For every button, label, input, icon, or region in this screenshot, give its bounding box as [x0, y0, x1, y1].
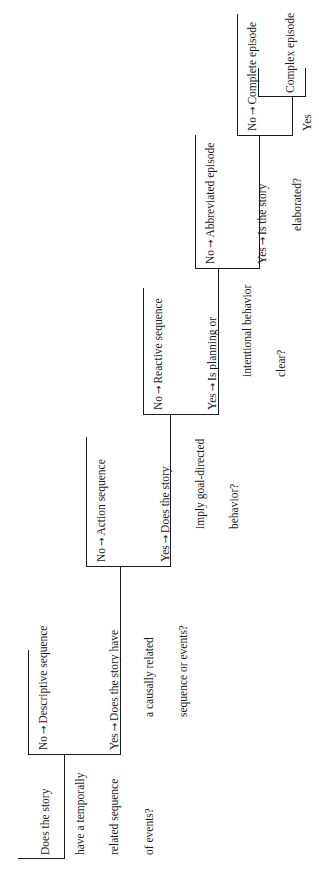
- node-3-no-label: No→Reactive sequence: [130, 298, 188, 410]
- no-label: No: [152, 396, 164, 410]
- arrow-icon: →: [160, 533, 171, 545]
- arrow-icon: →: [257, 235, 268, 247]
- no-label: No: [95, 548, 107, 562]
- no-label: No: [37, 736, 49, 750]
- node-2-bracket: [86, 566, 171, 567]
- root-baseline: [18, 858, 65, 859]
- episode-types-bracket-left: [258, 68, 259, 97]
- no-label: No: [204, 250, 216, 264]
- arrow-icon: →: [96, 536, 107, 548]
- episode-types-bracket: [258, 96, 306, 97]
- node-2-yes-question: Yes→Does the story imply goal-directed b…: [137, 439, 264, 562]
- root-question-line-2: have a temporally: [75, 773, 87, 855]
- node-1-bracket: [28, 754, 121, 755]
- arrow-icon: →: [247, 105, 258, 117]
- node-3-bracket: [143, 414, 219, 415]
- arrow-icon: →: [207, 381, 218, 393]
- episode-types-list: Complex episode Multiple episode Interac…: [262, 6, 319, 93]
- node-1-no-label: No→Descriptive sequence: [15, 626, 73, 750]
- yes-label: Yes: [159, 545, 171, 562]
- node-3-no-outcome: Reactive sequence: [152, 298, 164, 383]
- root-question: Does the story have a temporally related…: [17, 773, 178, 855]
- node-5-bracket: [237, 135, 293, 136]
- node-4-no-outcome: Abbreviated episode: [204, 143, 216, 238]
- node-4-yes-question: Yes→Is the story elaborated?: [234, 178, 319, 264]
- root-question-line-1: Does the story: [40, 773, 52, 855]
- node-1-yes-question: Yes→Does the story have a causally relat…: [86, 625, 213, 750]
- node-5-no-outcome: Complete episode: [246, 22, 258, 105]
- node-2-no-outcome: Action sequence: [95, 459, 107, 535]
- node-3-yes-question: Yes→Is planning or intentional behavior …: [184, 285, 311, 410]
- root-question-line-4: of events?: [144, 773, 156, 855]
- arrow-icon: →: [205, 238, 216, 250]
- root-question-line-3: related sequence: [109, 773, 121, 855]
- yes-label: Yes: [256, 247, 268, 264]
- episode-type-complex: Complex episode: [285, 6, 297, 93]
- no-label: No: [246, 117, 258, 131]
- yes-label: Yes: [302, 114, 314, 131]
- node-1-no-outcome: Descriptive sequence: [37, 626, 49, 724]
- node-4-bracket: [195, 268, 260, 269]
- yes-label: Yes: [108, 733, 120, 750]
- story-grammar-decision-tree: Does the story have a temporally related…: [0, 0, 319, 885]
- node-5-yes-label: Yes: [279, 114, 319, 131]
- arrow-icon: →: [109, 721, 120, 733]
- node-2-no-label: No→Action sequence: [73, 459, 131, 562]
- arrow-icon: →: [38, 724, 49, 736]
- node-4-no-label: No→Abbreviated episode: [182, 143, 240, 264]
- arrow-icon: →: [153, 384, 164, 396]
- yes-label: Yes: [206, 393, 218, 410]
